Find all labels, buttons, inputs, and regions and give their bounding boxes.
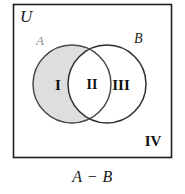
figure-caption: A − B [0, 168, 185, 186]
venn-diagram-figure: U A B I II III IV A − B [0, 0, 185, 194]
universe-label: U [20, 8, 32, 25]
set-b-label: B [134, 32, 143, 46]
shaded-region-a-minus-b [0, 0, 185, 194]
venn-diagram-canvas [0, 0, 185, 194]
region-label-i: I [55, 78, 61, 93]
region-label-iii: III [112, 78, 130, 93]
set-a-label: A [36, 34, 44, 47]
region-label-iv: IV [145, 134, 162, 149]
region-label-ii: II [87, 78, 98, 92]
